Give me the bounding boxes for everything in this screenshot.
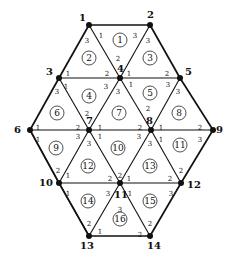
local-node-number: 1 — [98, 228, 102, 236]
mesh-node: 7 — [86, 115, 93, 133]
element-number: 5 — [147, 88, 153, 98]
local-node-number: 1 — [128, 190, 132, 198]
local-node-number: 2 — [56, 167, 60, 175]
element-marker: 4 — [82, 89, 96, 103]
local-node-number: 3 — [169, 190, 173, 198]
element-number: 14 — [82, 196, 94, 206]
local-node-number: 1 — [127, 70, 131, 78]
finite-element-mesh-diagram: 12345678910111213141516 1333212121333133… — [0, 0, 236, 262]
element-number: 9 — [53, 143, 59, 153]
element-marker: 10 — [111, 141, 125, 155]
mesh-node: 5 — [177, 66, 192, 81]
element-number: 8 — [176, 108, 182, 118]
element-number: 6 — [54, 108, 60, 118]
local-node-number: 3 — [116, 88, 120, 96]
local-node-number: 2 — [168, 175, 172, 183]
local-node-number: 3 — [76, 133, 80, 141]
local-node-number: 3 — [133, 32, 137, 40]
element-marker: 12 — [81, 159, 95, 173]
local-node-number: 3 — [148, 140, 152, 148]
element-marker: 11 — [173, 138, 187, 152]
node-number: 4 — [117, 63, 124, 74]
local-node-number: 1 — [36, 124, 40, 132]
interior-edges — [30, 25, 213, 236]
element-marker: 3 — [143, 51, 157, 65]
node-number: 5 — [185, 66, 192, 77]
node-dot-icon — [86, 127, 92, 133]
local-node-number: 2 — [118, 172, 122, 180]
boundary-edge — [30, 78, 59, 130]
mesh-node: 1 — [79, 12, 92, 28]
element-number: 16 — [114, 214, 126, 224]
element-marker: 5 — [143, 86, 157, 100]
node-number: 11 — [114, 189, 128, 200]
local-node-number: 1 — [66, 190, 70, 198]
local-node-number: 1 — [127, 175, 131, 183]
local-node-number: 1 — [159, 124, 163, 132]
local-node-number: 2 — [148, 220, 152, 228]
node-dot-icon — [177, 75, 183, 81]
local-node-number: 3 — [55, 88, 59, 96]
local-node-number: 3 — [146, 37, 150, 45]
node-number: 8 — [146, 115, 153, 126]
node-number: 1 — [79, 12, 86, 23]
element-number: 11 — [174, 140, 185, 150]
element-marker: 16 — [113, 212, 127, 226]
boundary-edge — [59, 25, 89, 78]
local-node-number: 1 — [98, 124, 102, 132]
local-node-number: 1 — [129, 81, 133, 89]
mesh-node: 4 — [117, 63, 124, 81]
node-dot-icon — [147, 22, 153, 28]
element-marker: 15 — [143, 194, 157, 208]
element-number: 1 — [117, 35, 123, 45]
local-node-number: 3 — [176, 88, 180, 96]
mesh-node: 10 — [39, 177, 62, 188]
local-node-number: 1 — [66, 172, 70, 180]
element-number: 13 — [144, 161, 156, 171]
boundary-edge — [180, 78, 213, 130]
local-node-number: 2 — [116, 55, 120, 63]
element-marker: 6 — [50, 106, 64, 120]
element-marker: 7 — [112, 106, 126, 120]
node-number: 12 — [187, 179, 201, 190]
node-dot-icon — [56, 180, 62, 186]
node-number: 7 — [86, 115, 93, 126]
mesh-node: 6 — [14, 124, 33, 135]
node-number: 2 — [147, 9, 154, 20]
element-number: 4 — [86, 91, 92, 101]
mesh-edge — [151, 130, 181, 183]
mesh-edge — [120, 130, 151, 183]
local-node-number: 1 — [66, 70, 70, 78]
boundary-edge — [150, 183, 181, 236]
mesh-node: 3 — [46, 66, 62, 81]
local-node-number: 2 — [179, 167, 183, 175]
local-node-number: 1 — [99, 32, 103, 40]
boundary-edge — [59, 183, 89, 236]
local-node-number: 3 — [104, 83, 108, 91]
local-node-number: 3 — [198, 136, 202, 144]
boundary-edge — [30, 130, 59, 183]
node-number: 13 — [80, 240, 94, 251]
element-number: 7 — [116, 108, 122, 118]
mesh-node: 14 — [147, 233, 161, 251]
node-number: 3 — [46, 66, 53, 77]
element-marker: 2 — [82, 51, 96, 65]
node-dot-icon — [148, 127, 154, 133]
local-node-number: 3 — [118, 206, 122, 214]
local-node-number: 1 — [36, 136, 40, 144]
node-number: 10 — [39, 177, 53, 188]
local-node-number: 2 — [108, 175, 112, 183]
element-marker: 14 — [81, 194, 95, 208]
element-marker: 9 — [49, 141, 63, 155]
node-dot-icon — [147, 233, 153, 239]
mesh-node: 12 — [178, 179, 201, 190]
local-node-number: 1 — [98, 133, 102, 141]
local-node-number: 2 — [87, 220, 91, 228]
element-marker: 8 — [172, 106, 186, 120]
local-node-number: 1 — [159, 136, 163, 144]
element-number: 12 — [82, 161, 93, 171]
element-number: 3 — [147, 53, 153, 63]
local-node-number: 2 — [138, 124, 142, 132]
mesh-edge — [59, 130, 89, 183]
node-number: 9 — [216, 124, 223, 135]
